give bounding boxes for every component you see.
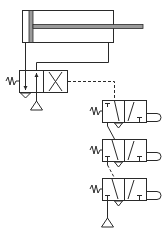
supply-source-icon — [31, 101, 43, 110]
valve-left-envelope — [103, 179, 125, 201]
spring-icon — [90, 185, 102, 193]
roller-actuator-icon — [147, 153, 162, 161]
exhaust-icon — [115, 123, 123, 128]
line-valve2-to-valve3 — [108, 165, 115, 178]
cylinder-lines — [26, 43, 109, 71]
pilot-valve-1 — [90, 101, 161, 129]
line-valve1-to-valve2 — [108, 126, 115, 139]
spring-icon — [90, 146, 102, 154]
cylinder — [23, 11, 144, 43]
supply-source-icon — [102, 218, 114, 227]
pilot-valve-3 — [90, 179, 161, 228]
cylinder-rod — [33, 25, 143, 29]
roller-actuator-icon — [147, 114, 162, 122]
pilot-line-main — [68, 82, 115, 101]
exhaust-icon — [21, 93, 31, 98]
main-valve — [6, 71, 68, 111]
valve-right-envelope — [125, 140, 147, 162]
exhaust-icon — [115, 162, 123, 167]
valve-left-envelope — [103, 140, 125, 162]
roller-actuator-icon — [147, 192, 162, 200]
pilot-valve-2 — [90, 140, 161, 168]
main-valve-left-envelope — [20, 71, 44, 93]
valve-right-envelope — [125, 101, 147, 123]
pneumatic-circuit-diagram — [0, 0, 167, 237]
cylinder-piston — [29, 11, 33, 43]
spring-icon — [6, 77, 19, 85]
spring-icon — [90, 107, 102, 115]
exhaust-icon — [115, 201, 123, 206]
line-cylinder-port-b — [37, 43, 109, 71]
valve-right-envelope — [125, 179, 147, 201]
